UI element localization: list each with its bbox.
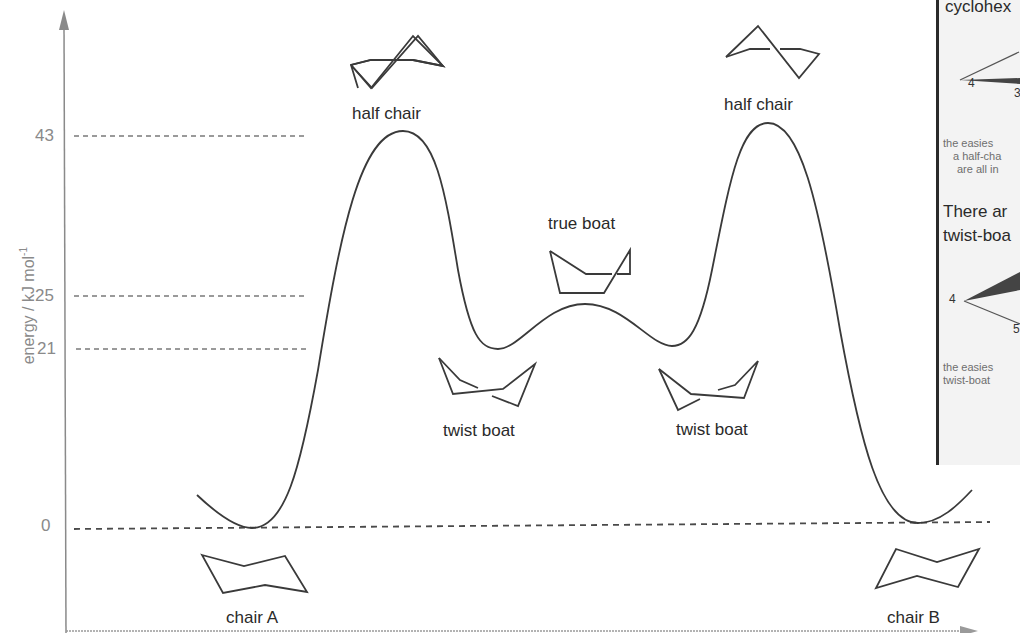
panel-note-2-line1: the easies <box>943 361 993 374</box>
label-half-chair-left: half chair <box>352 104 421 124</box>
panel-heading-2-line2: twist-boa <box>943 226 1011 246</box>
side-panel: cyclohex 4 3 the easies a half-cha are a… <box>936 0 1020 465</box>
y-tick-43: 43 <box>35 126 54 146</box>
y-tick-21: 21 <box>37 339 56 359</box>
y-axis-title-main: energy / kJ mol <box>20 256 37 364</box>
x-axis-arrowhead-icon <box>960 626 978 633</box>
y-axis <box>59 10 69 633</box>
panel-num-3: 3 <box>1014 86 1020 100</box>
label-true-boat: true boat <box>548 214 615 234</box>
true-boat-molecule-icon <box>550 250 630 293</box>
panel-note-1-line1: the easies <box>943 137 993 150</box>
label-twist-boat-right: twist boat <box>676 420 748 440</box>
twist-boat-left-molecule-icon <box>439 358 535 406</box>
half-chair-right-molecule-icon <box>726 26 819 78</box>
panel-num-4b: 4 <box>949 292 956 306</box>
twist-boat-right-molecule-icon <box>659 361 758 410</box>
panel-note-1-line3: are all in <box>957 163 999 176</box>
chair-b-molecule-icon <box>876 549 979 588</box>
panel-num-4a: 4 <box>968 76 975 90</box>
chair-a-molecule-icon <box>202 555 307 593</box>
panel-heading-2-line1: There ar <box>943 202 1007 222</box>
half-chair-left-molecule-icon <box>351 36 443 88</box>
y-axis-title: energy / kJ mol-1 <box>18 226 37 386</box>
y-axis-arrowhead-icon <box>59 10 69 30</box>
label-twist-boat-left: twist boat <box>443 421 515 441</box>
label-half-chair-right: half chair <box>724 95 793 115</box>
panel-twist-boat-diagram-icon <box>939 250 1020 370</box>
panel-note-2-line2: twist-boat <box>943 374 990 387</box>
panel-half-chair-diagram-icon <box>939 0 1020 120</box>
panel-note-1-line2: a half-cha <box>953 150 1001 163</box>
y-axis-title-superscript: -1 <box>18 247 29 256</box>
y-tick-25: 25 <box>35 286 54 306</box>
y-tick-0: 0 <box>41 516 50 536</box>
reference-lines <box>74 136 990 529</box>
ref-line-0 <box>74 522 990 529</box>
label-chair-b: chair B <box>887 608 940 628</box>
panel-num-5: 5 <box>1013 322 1020 336</box>
energy-curve <box>197 123 972 528</box>
x-axis <box>66 626 978 633</box>
label-chair-a: chair A <box>226 608 278 628</box>
